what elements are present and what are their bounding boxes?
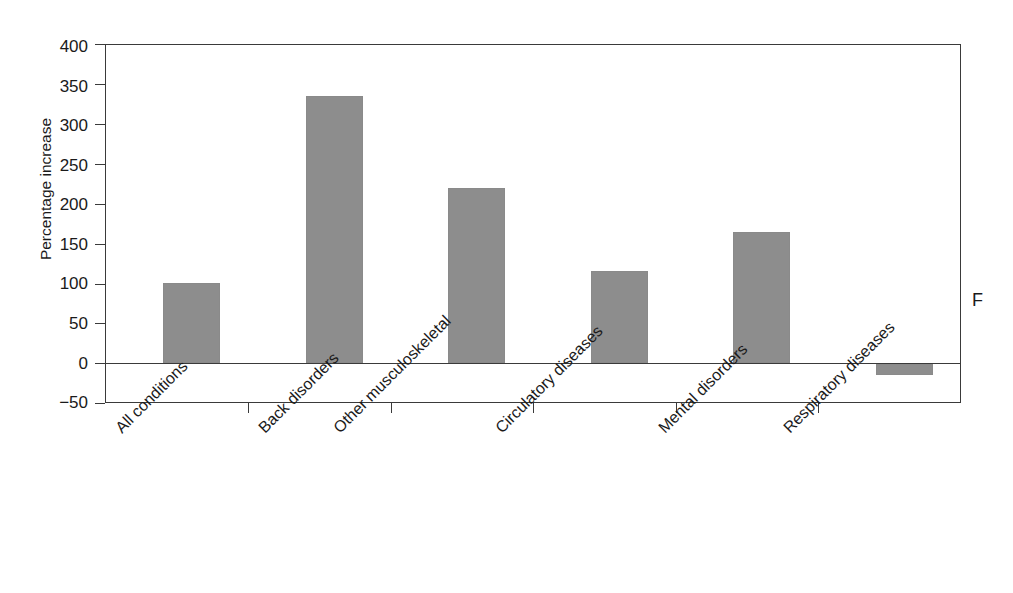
y-tick-mark	[95, 44, 105, 45]
y-tick-label-group: 150	[20, 236, 88, 253]
y-tick-mark	[95, 204, 105, 205]
y-tick-mark	[95, 323, 105, 324]
y-axis-title: Percentage increase	[37, 79, 55, 299]
y-tick-label: 400	[24, 38, 88, 55]
y-tick-label: 100	[24, 275, 88, 292]
y-tick-label-group: 350	[20, 78, 88, 95]
y-tick-label-group: 0	[20, 355, 88, 372]
bar-circulatory-diseases	[591, 271, 648, 363]
y-tick-mark	[95, 124, 105, 125]
y-tick-label-group: 100	[20, 275, 88, 292]
y-tick-label: −50	[24, 394, 88, 411]
y-tick-label-group: 200	[20, 196, 88, 213]
y-tick-label: 150	[24, 236, 88, 253]
y-tick-mark	[95, 284, 105, 285]
figure-corner-annotation: F	[972, 291, 983, 309]
y-tick-label: 0	[24, 355, 88, 372]
y-tick-label: 350	[24, 78, 88, 95]
y-tick-mark	[95, 363, 105, 364]
bar-all-conditions	[163, 283, 220, 363]
bar-chart: Percentage increase 400 350 300 250 200 …	[0, 0, 1013, 593]
x-tick-mark	[391, 403, 392, 413]
plot-area-frame	[105, 44, 961, 403]
y-tick-label-group: 50	[20, 315, 88, 332]
x-tick-mark	[248, 403, 249, 413]
y-tick-label-group: 250	[20, 157, 88, 174]
bar-other-musculoskeletal	[448, 188, 505, 363]
y-tick-label-group: 300	[20, 117, 88, 134]
y-tick-mark	[95, 244, 105, 245]
y-tick-label: 200	[24, 196, 88, 213]
bar-respiratory-diseases	[876, 364, 933, 375]
y-tick-label-group: 400	[20, 38, 88, 55]
y-tick-label: 300	[24, 117, 88, 134]
bar-back-disorders	[306, 96, 363, 363]
y-tick-mark	[95, 403, 105, 404]
y-tick-mark	[95, 84, 105, 85]
zero-baseline	[105, 363, 961, 364]
y-tick-label-group: −50	[20, 394, 88, 411]
y-tick-label: 50	[24, 315, 88, 332]
y-tick-label: 250	[24, 157, 88, 174]
y-tick-mark	[95, 164, 105, 165]
